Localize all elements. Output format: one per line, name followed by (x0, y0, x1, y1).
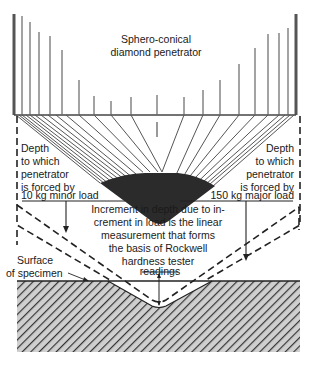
penetrator-converging-line (94, 115, 150, 172)
minor-load-label-line-2: to which (21, 155, 60, 167)
increment-label-line-6: readings (140, 265, 180, 277)
penetrator-title-line-1: Sphero-conical (121, 33, 191, 45)
minor-load-label-line-1: Depth (21, 142, 49, 154)
major-load-label-line-5: 150 kg major load (211, 189, 295, 201)
increment-label-line-3: measurement that forms (101, 229, 215, 241)
major-load-label-line-3: penetrator (246, 168, 294, 180)
penetrator-converging-line (111, 115, 158, 172)
minor-load-label-line-5: 10 kg minor load (21, 189, 99, 201)
major-load-label-line-2: to which (255, 155, 294, 167)
minor-load-label-line-3: penetrator (21, 168, 69, 180)
increment-arrowhead-down (157, 301, 161, 306)
increment-label-line-1: Increment in depth due to in- (91, 203, 225, 215)
surface-leader-arrowhead (83, 277, 89, 281)
penetrator-title-line-2: diamond penetrator (110, 46, 202, 58)
surface-label-line-1: Surface (17, 254, 53, 266)
surface-label-line-2: of specimen (6, 267, 63, 279)
rockwell-hardness-diagram: Sphero-conical diamond penetrator Depth … (0, 0, 310, 366)
penetrator-converging-line (188, 115, 239, 179)
major-load-arrowhead (243, 254, 249, 261)
increment-label-line-4: the basis of Rockwell (109, 242, 208, 254)
major-load-label-line-1: Depth (266, 142, 294, 154)
increment-label-line-2: crement in load is the linear (94, 216, 223, 228)
minor-load-arrowhead (63, 226, 69, 233)
